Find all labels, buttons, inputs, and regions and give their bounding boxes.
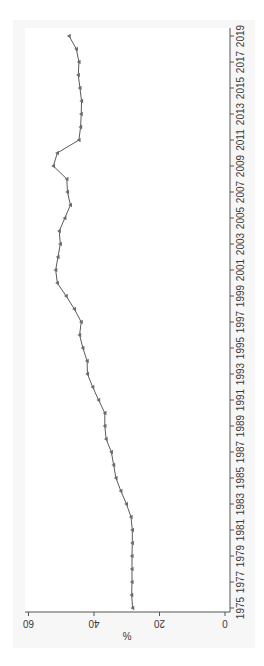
value-axis-label: %: [122, 630, 131, 641]
year-tick-label: 1983: [235, 492, 246, 515]
value-tick-label: 20: [154, 618, 166, 629]
value-tick-label: 40: [88, 618, 100, 629]
year-tick-label: 1989: [235, 414, 246, 437]
year-tick-label: 1987: [235, 440, 246, 463]
year-tick-label: 2003: [235, 232, 246, 255]
year-tick-label: 1995: [235, 336, 246, 359]
year-tick-label: 2007: [235, 180, 246, 203]
year-tick-label: 2009: [235, 154, 246, 177]
year-tick-label: 2017: [235, 50, 246, 73]
year-tick-label: 1991: [235, 388, 246, 411]
line-chart: 1975197719791981198319851987198919911993…: [0, 0, 264, 666]
year-tick-label: 1993: [235, 362, 246, 385]
year-tick-label: 1975: [235, 596, 246, 619]
year-tick-label: 2019: [235, 24, 246, 47]
year-tick-label: 1997: [235, 310, 246, 333]
year-tick-label: 2013: [235, 102, 246, 125]
year-tick-label: 1981: [235, 518, 246, 541]
year-tick-label: 2015: [235, 76, 246, 99]
year-tick-label: 1977: [235, 570, 246, 593]
year-tick-label: 2011: [235, 129, 246, 151]
year-tick-label: 2001: [235, 258, 246, 281]
value-tick-label: 60: [23, 618, 35, 629]
year-tick-label: 1999: [235, 284, 246, 307]
value-tick-label: 0: [222, 618, 228, 629]
year-axis-ticks: 1975197719791981198319851987198919911993…: [230, 24, 246, 619]
year-tick-label: 2005: [235, 206, 246, 229]
year-tick-label: 1985: [235, 466, 246, 489]
plot-area: [25, 28, 230, 612]
year-tick-label: 1979: [235, 544, 246, 567]
